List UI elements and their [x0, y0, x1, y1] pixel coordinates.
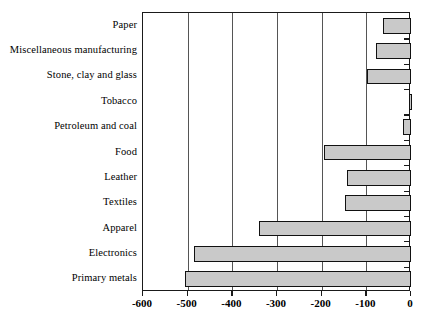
bar-row — [143, 145, 409, 161]
bar-primary-metals — [185, 271, 411, 287]
bar-stone-clay-and-glass — [367, 69, 411, 85]
y-axis-label-miscellaneous-manufacturing: Miscellaneous manufacturing — [10, 44, 137, 55]
bar-food — [324, 145, 411, 161]
x-axis-tick — [142, 291, 143, 296]
x-axis-tick — [231, 291, 232, 296]
y-axis-label-paper: Paper — [113, 19, 137, 30]
bar-row — [143, 271, 409, 287]
bar-row — [143, 43, 409, 59]
x-axis-tick-label: -100 — [355, 297, 375, 309]
bar-row — [143, 18, 409, 34]
bar-row — [143, 94, 409, 110]
x-axis-tick — [187, 291, 188, 296]
x-axis-tick — [321, 291, 322, 296]
x-axis-tick-label: 0 — [407, 297, 413, 309]
x-axis-tick — [410, 291, 411, 296]
plot-area — [142, 12, 410, 291]
x-axis-tick-label: -200 — [311, 297, 331, 309]
bar-row — [143, 195, 409, 211]
bar-miscellaneous-manufacturing — [376, 43, 411, 59]
x-axis-tick-label: -600 — [132, 297, 152, 309]
bar-paper — [383, 18, 411, 34]
bar-row — [143, 246, 409, 262]
y-axis-label-food: Food — [115, 146, 137, 157]
x-axis-tick-label: -400 — [221, 297, 241, 309]
bar-row — [143, 221, 409, 237]
bar-leather — [347, 170, 411, 186]
bar-tobacco — [409, 94, 412, 110]
bar-row — [143, 170, 409, 186]
bar-row — [143, 69, 409, 85]
y-axis-label-textiles: Textiles — [103, 196, 137, 207]
y-axis-label-tobacco: Tobacco — [101, 95, 137, 106]
bar-chart: Paper Miscellaneous manufacturing Stone,… — [0, 0, 423, 318]
x-axis-tick — [365, 291, 366, 296]
y-axis-label-apparel: Apparel — [102, 222, 137, 233]
bar-textiles — [345, 195, 411, 211]
bar-petroleum-and-coal — [403, 119, 411, 135]
y-axis-category-labels: Paper Miscellaneous manufacturing Stone,… — [0, 12, 137, 291]
bars-layer — [143, 13, 409, 290]
y-axis-label-primary-metals: Primary metals — [72, 272, 137, 283]
y-axis-label-leather: Leather — [104, 171, 137, 182]
bar-row — [143, 119, 409, 135]
y-axis-label-petroleum-and-coal: Petroleum and coal — [54, 120, 137, 131]
bar-apparel — [259, 221, 411, 237]
y-axis-label-electronics: Electronics — [89, 247, 137, 258]
x-axis: -600-500-400-300-200-1000 — [142, 291, 410, 318]
x-axis-tick-label: -500 — [177, 297, 197, 309]
bar-electronics — [194, 246, 411, 262]
x-axis-tick-label: -300 — [266, 297, 286, 309]
y-axis-label-stone-clay-and-glass: Stone, clay and glass — [47, 69, 137, 80]
x-axis-tick — [276, 291, 277, 296]
